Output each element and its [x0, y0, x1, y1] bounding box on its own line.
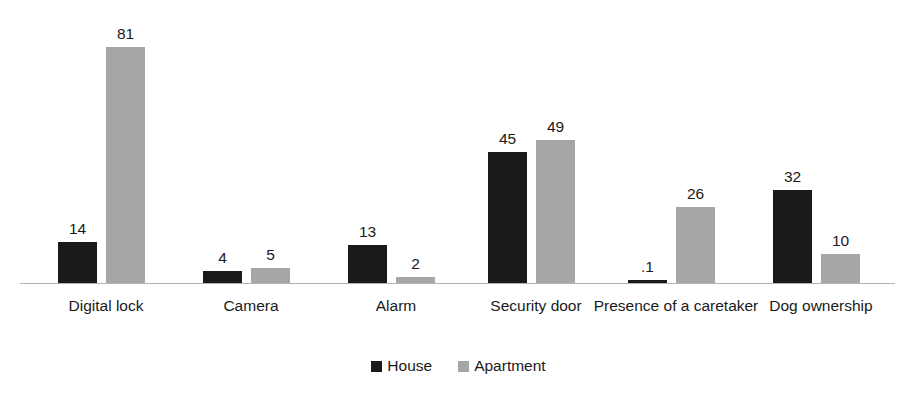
- bar-house-0[interactable]: [58, 242, 97, 283]
- bar-value-house-5: 32: [784, 169, 801, 185]
- bar-value-apartment-2: 2: [411, 256, 420, 272]
- bar-house-5[interactable]: [773, 190, 812, 283]
- bar-house-2[interactable]: [348, 245, 387, 283]
- bar-value-apartment-1: 5: [266, 247, 275, 263]
- x-axis-line: [20, 283, 895, 284]
- bar-value-house-2: 13: [359, 224, 376, 240]
- bar-apartment-2[interactable]: [396, 277, 435, 283]
- legend-label-apartment: Apartment: [474, 357, 546, 375]
- bar-value-apartment-0: 81: [117, 26, 134, 42]
- bar-apartment-5[interactable]: [821, 254, 860, 283]
- bar-chart: 1481451324549.1263210 Digital lockCamera…: [0, 0, 917, 403]
- legend-item-house[interactable]: House: [371, 357, 432, 375]
- plot-area: 1481451324549.1263210 Digital lockCamera…: [0, 0, 917, 290]
- bar-value-house-3: 45: [499, 131, 516, 147]
- house-legend-swatch: [371, 361, 382, 372]
- bar-apartment-0[interactable]: [106, 47, 145, 283]
- category-label-5: Dog ownership: [735, 296, 907, 315]
- bar-house-4[interactable]: [628, 280, 667, 283]
- bar-apartment-3[interactable]: [536, 140, 575, 283]
- legend-item-apartment[interactable]: Apartment: [458, 357, 546, 375]
- bar-value-house-0: 14: [69, 221, 86, 237]
- bar-apartment-4[interactable]: [676, 207, 715, 283]
- bar-value-house-1: 4: [218, 250, 227, 266]
- bar-value-apartment-3: 49: [547, 119, 564, 135]
- legend-label-house: House: [387, 357, 432, 375]
- chart-legend: House Apartment: [0, 357, 917, 375]
- bar-house-3[interactable]: [488, 152, 527, 283]
- bar-value-apartment-4: 26: [687, 186, 704, 202]
- apartment-legend-swatch: [458, 361, 469, 372]
- bar-value-house-4: .1: [641, 259, 654, 275]
- bar-house-1[interactable]: [203, 271, 242, 283]
- bar-value-apartment-5: 10: [832, 233, 849, 249]
- bar-apartment-1[interactable]: [251, 268, 290, 283]
